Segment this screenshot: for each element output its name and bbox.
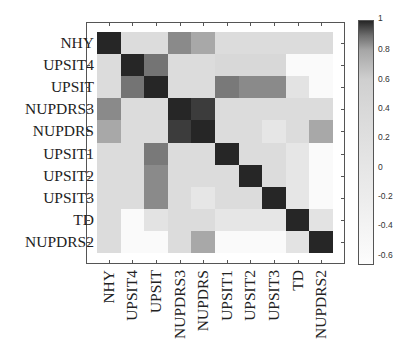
heatmap-cell [97,120,121,142]
heatmap-cell [286,209,310,231]
heatmap-cell [97,231,121,253]
heatmap-cell [144,231,168,253]
colorbar-tick-label: 0.2 [378,132,390,142]
heatmap-cell [121,98,145,120]
heatmap-cell [191,143,215,165]
heatmap-cell [309,32,333,54]
colorbar-tick-label: 0.6 [378,74,390,84]
axis-tick [87,220,90,221]
colorbar-tick-label: 0.4 [378,103,390,113]
heatmap-cell [215,209,239,231]
heatmap-cell [168,143,192,165]
heatmap-cell [239,143,263,165]
y-tick-label: NUPDRS3 [25,102,94,118]
heatmap-cell [191,187,215,209]
axis-tick [341,220,344,221]
heatmap-cell [262,120,286,142]
heatmap-cell [215,54,239,76]
colorbar-tick-label: 1 [378,13,383,23]
heatmap-cell [191,98,215,120]
heatmap-cell [239,120,263,142]
heatmap-cell [215,76,239,98]
heatmap-cell [168,98,192,120]
heatmap-cell [121,76,145,98]
heatmap-cell [191,32,215,54]
y-tick-label: NUPDRS2 [25,234,94,250]
axis-tick [180,23,181,26]
axis-tick [203,23,204,26]
heatmap-cell [262,54,286,76]
y-tick-label: NUPDRS [33,124,94,140]
heatmap-cell [144,120,168,142]
axis-tick [298,23,299,26]
axis-tick [250,23,251,26]
x-tick-label: UPSIT4 [124,270,140,321]
colorbar-tick-label: -0.6 [378,250,393,260]
heatmap-cell [144,76,168,98]
heatmap-cell [121,120,145,142]
heatmap-cell [97,143,121,165]
heatmap-cell [144,209,168,231]
heatmap-cell [262,165,286,187]
heatmap-cell [262,76,286,98]
heatmap-cell [215,165,239,187]
heatmap-cell [215,231,239,253]
heatmap-cell [286,187,310,209]
heatmap-cell [286,120,310,142]
axis-tick [156,260,157,263]
heatmap-cell [239,209,263,231]
heatmap-cell [239,187,263,209]
heatmap-cell [286,98,310,120]
heatmap-cell [121,165,145,187]
heatmap-cell [168,120,192,142]
heatmap-cell [97,209,121,231]
heatmap-cell [309,54,333,76]
heatmap-cell [121,143,145,165]
axis-tick [341,109,344,110]
heatmap-cell [168,209,192,231]
heatmap-cell [144,143,168,165]
heatmap-cell [286,32,310,54]
axis-tick [227,260,228,263]
heatmap-cell [215,143,239,165]
heatmap-cell [168,231,192,253]
colorbar-tick-label: 0.8 [378,44,390,54]
heatmap-cell [191,165,215,187]
heatmap-cell [97,76,121,98]
heatmap-cell [191,120,215,142]
axis-tick [87,109,90,110]
heatmap-cell [239,165,263,187]
colorbar-tick-label: 0 [378,162,383,172]
heatmap-cell [286,54,310,76]
axis-tick [341,176,344,177]
heatmap-cell [191,209,215,231]
axis-tick [321,23,322,26]
heatmap-cell [191,54,215,76]
heatmap-cell [309,165,333,187]
heatmap-cell [215,120,239,142]
axis-tick [274,23,275,26]
heatmap-cell [144,54,168,76]
axis-tick [341,242,344,243]
heatmap-cell [121,187,145,209]
colorbar-tick-label: -0.4 [378,220,393,230]
heatmap-cell [144,32,168,54]
axis-tick [321,260,322,263]
axis-tick [87,176,90,177]
axis-tick [87,242,90,243]
heatmap-cell [239,54,263,76]
heatmap-cell [97,98,121,120]
axis-tick [341,154,344,155]
heatmap-cell [97,32,121,54]
heatmap-cell [97,165,121,187]
axis-tick [87,65,90,66]
axis-tick [109,23,110,26]
heatmap-cell [239,76,263,98]
heatmap-cell [239,98,263,120]
axis-tick [227,23,228,26]
axis-tick [341,43,344,44]
x-tick-label: NUPDRS3 [172,270,188,339]
heatmap-cell [309,209,333,231]
x-tick-label: TD [290,270,306,291]
heatmap-cell [215,98,239,120]
